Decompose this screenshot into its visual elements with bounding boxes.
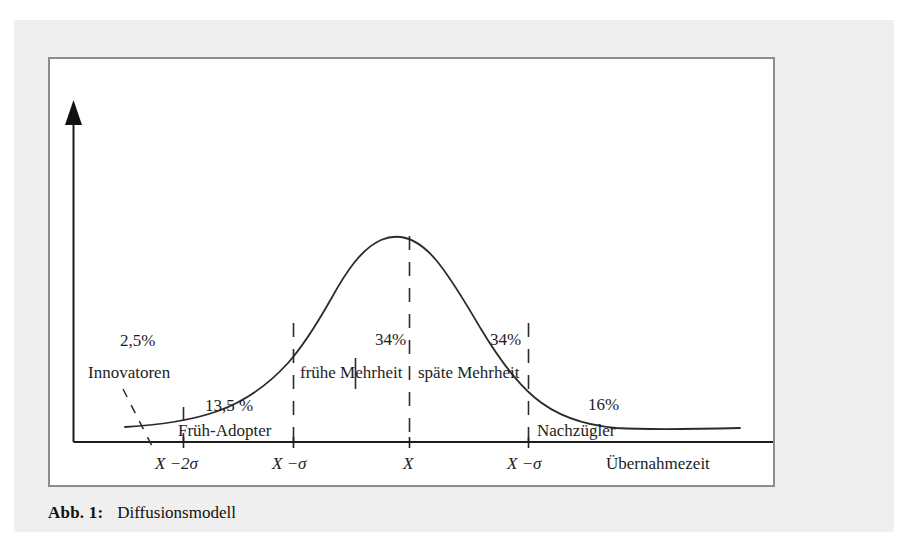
x-tick-label-minus-sigma: X −σ — [272, 455, 307, 472]
caption-text: Diffusionsmodell — [117, 503, 236, 522]
x-tick-label-plus-sigma: X −σ — [507, 455, 542, 472]
diffusion-curve-plot — [50, 59, 773, 485]
percent-label-spaete-mehrheit: 34% — [490, 331, 521, 348]
segment-label-frueh-adopter: Früh-Adopter — [178, 422, 271, 439]
segment-label-nachzuegler: Nachzügler — [537, 422, 615, 439]
innovatoren-leader-line — [123, 389, 153, 448]
x-axis-name-label: Übernahmezeit — [606, 455, 710, 472]
segment-label-innovatoren: Innovatoren — [88, 364, 170, 381]
caption-label: Abb. 1: — [48, 503, 103, 522]
figure-frame: 2,5% 13,5 % 34% 34% 16% Innovatoren Früh… — [48, 57, 775, 487]
percent-label-innovatoren: 2,5% — [120, 332, 155, 349]
segment-label-spaete-mehrheit: späte Mehrheit — [418, 364, 520, 381]
percent-label-fruehe-mehrheit: 34% — [375, 331, 406, 348]
segment-label-fruehe-mehrheit: frühe Mehrheit — [300, 364, 402, 381]
x-tick-label-minus-2-sigma: X −2σ — [155, 455, 198, 472]
figure-page: 2,5% 13,5 % 34% 34% 16% Innovatoren Früh… — [0, 0, 908, 549]
figure-caption: Abb. 1:Diffusionsmodell — [48, 503, 788, 523]
percent-label-frueh-adopter: 13,5 % — [205, 397, 253, 414]
y-axis-arrowhead — [65, 100, 82, 125]
percent-label-nachzuegler: 16% — [588, 396, 619, 413]
x-tick-label-mean: X — [403, 455, 413, 472]
